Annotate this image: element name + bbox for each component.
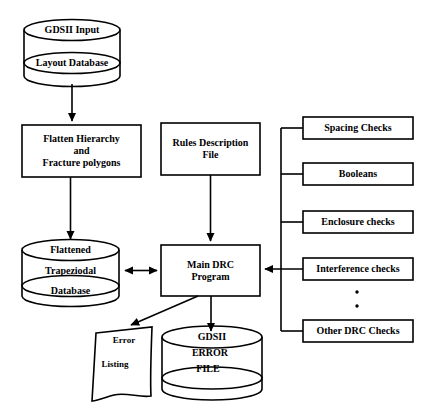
edge-main-drc-to-error-listing [131, 296, 198, 325]
check-box-shape-1 [303, 163, 413, 185]
edge-checks-bus-to-main-drc [265, 128, 303, 331]
check-box-shape-3 [303, 258, 413, 280]
check-box-shape-0 [303, 117, 413, 139]
diagram-canvas [0, 0, 431, 414]
main-drc-program-box-shape [161, 245, 260, 296]
flattened-database-cylinder-shape [22, 240, 119, 307]
check-box-shape-4 [303, 320, 413, 342]
flatten-hierarchy-box-shape [22, 125, 141, 177]
drc-flowchart-diagram: GDSII Input Layout Database Flatten Hier… [0, 0, 431, 414]
rules-description-box-shape [161, 123, 260, 175]
checks-ellipsis-dots [355, 290, 358, 307]
input-database-cylinder-shape [24, 20, 120, 87]
check-box-shape-2 [303, 211, 413, 233]
error-file-cylinder-shape [162, 326, 262, 400]
error-listing-document-shape [92, 327, 152, 401]
